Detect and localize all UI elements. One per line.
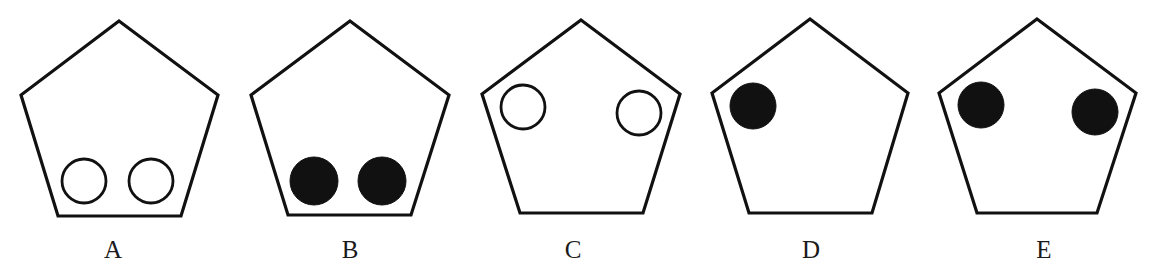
hollow-circle bbox=[617, 91, 661, 135]
option-label: D bbox=[802, 236, 820, 263]
option-label: B bbox=[342, 236, 359, 263]
hollow-circle bbox=[129, 159, 173, 203]
filled-circle bbox=[290, 157, 338, 205]
filled-circle bbox=[1072, 89, 1118, 135]
hollow-circle bbox=[62, 159, 106, 203]
hollow-circle bbox=[501, 85, 545, 129]
option-label: E bbox=[1036, 236, 1051, 263]
option-c[interactable]: C bbox=[482, 20, 680, 263]
pentagon-shape bbox=[21, 21, 218, 216]
options-group: ABCDE bbox=[21, 19, 1136, 263]
filled-circle bbox=[958, 82, 1004, 128]
filled-circle bbox=[730, 83, 776, 129]
option-d[interactable]: D bbox=[712, 19, 908, 263]
option-label: C bbox=[565, 236, 582, 263]
filled-circle bbox=[358, 157, 406, 205]
option-b[interactable]: B bbox=[251, 21, 449, 263]
pentagon-options-diagram: ABCDE bbox=[0, 0, 1153, 278]
option-a[interactable]: A bbox=[21, 21, 218, 263]
pentagon-shape bbox=[251, 21, 449, 215]
option-e[interactable]: E bbox=[939, 19, 1136, 263]
option-label: A bbox=[104, 236, 122, 263]
